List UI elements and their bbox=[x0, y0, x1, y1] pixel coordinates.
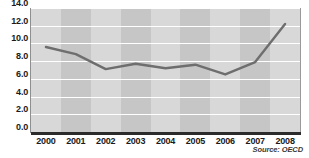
y-axis-tick-label: 2.0 bbox=[16, 105, 28, 114]
y-axis-tick-label: 12.0 bbox=[11, 16, 28, 25]
x-axis-rule bbox=[31, 132, 301, 135]
plot-area bbox=[31, 8, 300, 132]
y-axis-tick-label: 8.0 bbox=[16, 52, 28, 61]
y-axis-tick-label: 0.0 bbox=[16, 123, 28, 132]
x-axis-tick-label: 2001 bbox=[66, 136, 85, 147]
x-axis-tick-label: 2002 bbox=[96, 136, 115, 147]
y-axis: 14.0 12.0 10.0 8.0 6.0 4.0 2.0 0.0 bbox=[0, 0, 30, 140]
x-axis-tick-label: 2000 bbox=[36, 136, 55, 147]
x-axis-tick-label: 2004 bbox=[156, 136, 175, 147]
y-axis-rule bbox=[30, 8, 31, 133]
line-chart-figure: 14.0 12.0 10.0 8.0 6.0 4.0 2.0 0.0 2000 bbox=[0, 0, 309, 158]
y-axis-tick-label: 4.0 bbox=[16, 87, 28, 96]
y-axis-tick-label: 6.0 bbox=[16, 69, 28, 78]
plot-right-border bbox=[300, 8, 301, 133]
y-axis-tick-label: 14.0 bbox=[11, 0, 28, 8]
x-axis-tick-label: 2006 bbox=[216, 136, 235, 147]
data-series-line bbox=[31, 8, 300, 132]
x-axis-tick-label: 2005 bbox=[186, 136, 205, 147]
x-axis-tick-label: 2003 bbox=[126, 136, 145, 147]
y-axis-tick-label: 10.0 bbox=[11, 34, 28, 43]
source-note: Source: OECD bbox=[253, 145, 303, 154]
